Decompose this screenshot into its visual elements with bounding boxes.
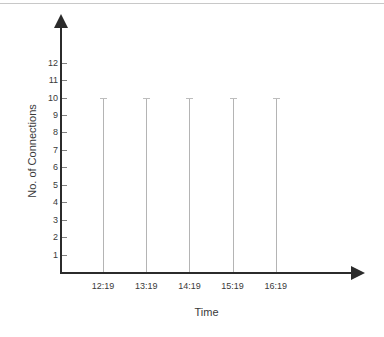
bar — [189, 98, 190, 273]
bar-cap — [100, 98, 107, 99]
bar — [276, 98, 277, 273]
bar — [233, 98, 234, 273]
y-tick-label: 3 — [18, 216, 58, 225]
x-axis-arrow-icon — [351, 266, 365, 280]
y-tick-label: 12 — [18, 59, 58, 68]
y-tick-mark — [62, 220, 67, 221]
bar-cap — [186, 98, 193, 99]
y-tick-mark — [62, 185, 67, 186]
y-tick-mark — [62, 80, 67, 81]
chart-container: 123456789101112 12:1913:1914:1915:1916:1… — [0, 0, 384, 337]
y-axis-title: No. of Connections — [26, 71, 38, 231]
y-tick-mark — [62, 98, 67, 99]
x-axis-title: Time — [60, 306, 353, 318]
y-tick-mark — [62, 237, 67, 238]
y-tick-mark — [62, 167, 67, 168]
y-tick-label: 4 — [18, 198, 58, 207]
y-tick-label: 8 — [18, 128, 58, 137]
y-axis-arrow-icon — [54, 14, 68, 28]
y-tick-label: 5 — [18, 181, 58, 190]
bar-cap — [273, 98, 280, 99]
y-tick-label: 11 — [18, 76, 58, 85]
y-tick-mark — [62, 63, 67, 64]
bar-cap — [230, 98, 237, 99]
y-tick-mark — [62, 202, 67, 203]
bar-cap — [143, 98, 150, 99]
y-tick-label: 2 — [18, 233, 58, 242]
y-tick-mark — [62, 132, 67, 133]
x-axis-line — [60, 272, 353, 274]
y-tick-label: 1 — [18, 251, 58, 260]
x-tick-label: 16:19 — [246, 281, 306, 291]
y-tick-label: 7 — [18, 146, 58, 155]
y-tick-mark — [62, 150, 67, 151]
y-tick-mark — [62, 115, 67, 116]
y-tick-mark — [62, 255, 67, 256]
y-tick-label: 9 — [18, 111, 58, 120]
bar — [146, 98, 147, 273]
y-tick-label: 10 — [18, 94, 58, 103]
plot-area: 123456789101112 12:1913:1914:1915:1916:1… — [0, 0, 384, 337]
y-tick-label: 6 — [18, 163, 58, 172]
bar — [103, 98, 104, 273]
